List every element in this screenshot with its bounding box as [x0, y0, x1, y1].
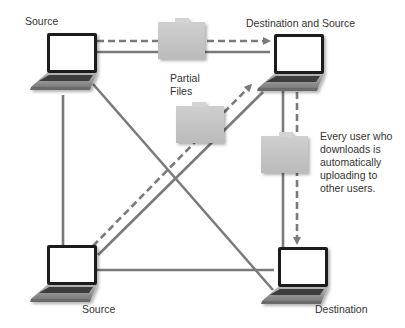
node-label-top-right: Destination and Source — [246, 17, 355, 30]
folder-icon — [158, 18, 205, 59]
partial-files-line: Partial — [170, 72, 200, 85]
note-line: automatically — [320, 156, 392, 169]
note-line: downloads is — [320, 143, 392, 156]
node-label-bottom-right: Destination — [315, 303, 368, 316]
laptop-icon — [257, 34, 324, 91]
node-label-top-left: Source — [25, 15, 58, 28]
folder-icon — [261, 132, 308, 173]
partial-files-line: Files — [170, 85, 200, 98]
laptop-icon — [30, 33, 97, 90]
note-line: Every user who — [320, 130, 392, 143]
laptop-icon — [30, 245, 97, 302]
note-line: uploading to — [320, 169, 392, 182]
p2p-diagram: Source Destination and Source Source Des… — [0, 0, 405, 328]
laptop-icon — [261, 247, 328, 304]
note-line: other users. — [320, 182, 392, 195]
folder-icon — [176, 102, 224, 143]
node-label-bottom-left: Source — [82, 303, 115, 316]
explanation-note: Every user who downloads is automaticall… — [320, 130, 392, 195]
partial-files-label: Partial Files — [170, 72, 200, 98]
